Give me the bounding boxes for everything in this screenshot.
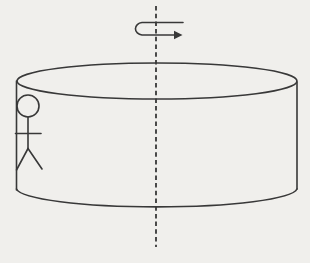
paper-background <box>0 0 310 263</box>
diagram-canvas <box>0 0 310 263</box>
rotating-cylinder-diagram <box>0 0 310 263</box>
